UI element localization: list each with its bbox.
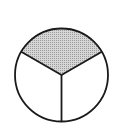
shaded-sector [21,28,102,75]
fraction-circle-diagram [0,0,119,129]
